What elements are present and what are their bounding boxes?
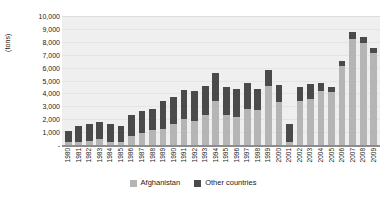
stacked-bar[interactable] (149, 109, 156, 145)
stacked-bar[interactable] (254, 89, 261, 145)
stacked-bar[interactable] (223, 87, 230, 145)
stacked-bar[interactable] (128, 115, 135, 145)
stacked-bar[interactable] (360, 37, 367, 145)
legend-item[interactable]: Other countries (194, 179, 256, 187)
y-tick-label: 2,000 (42, 116, 60, 123)
x-tick-label: 2002 (297, 148, 304, 162)
bar-segment-afghanistan (276, 102, 283, 145)
x-tick-label: 1985 (118, 148, 125, 162)
x-tick-slot: 2005 (326, 147, 337, 173)
y-tick-label: 3,000 (42, 103, 60, 110)
bar-segment-other-countries (75, 126, 82, 143)
bar-segment-afghanistan (307, 99, 314, 145)
legend-swatch-icon (194, 180, 201, 187)
stacked-bar[interactable] (75, 126, 82, 145)
x-tick-label: 1994 (212, 148, 219, 162)
bar-segment-afghanistan (160, 129, 167, 145)
bar-segment-other-countries (297, 87, 304, 101)
plot-area (62, 16, 380, 145)
bar-segment-other-countries (149, 109, 156, 130)
stacked-bar[interactable] (181, 90, 188, 145)
bar-segment-afghanistan (128, 136, 135, 145)
stacked-bar[interactable] (118, 126, 125, 145)
bar-segment-other-countries (318, 83, 325, 91)
y-axis-title: (tons) (4, 0, 18, 52)
y-tick-label: 1,000 (42, 129, 60, 136)
chart-figure: (tons) -1,0002,0003,0004,0005,0006,0007,… (0, 0, 386, 199)
stacked-bar[interactable] (202, 86, 209, 145)
bar-slot (347, 16, 358, 145)
bar-segment-other-countries (265, 70, 272, 85)
x-tick-label: 1995 (223, 148, 230, 162)
bar-slot (337, 16, 348, 145)
bar-slot (305, 16, 316, 145)
bar-slot (147, 16, 158, 145)
bar-slot (253, 16, 264, 145)
x-axis-tick-labels: 1980198119821983198419851986198719881989… (62, 147, 380, 173)
legend-item[interactable]: Afghanistan (130, 179, 181, 187)
x-tick-slot: 1998 (253, 147, 264, 173)
x-tick-label: 2007 (349, 148, 356, 162)
stacked-bar[interactable] (286, 124, 293, 145)
stacked-bar[interactable] (212, 73, 219, 145)
stacked-bar[interactable] (233, 89, 240, 145)
x-tick-label: 1993 (202, 148, 209, 162)
chart-legend: AfghanistanOther countries (0, 176, 386, 190)
stacked-bar[interactable] (244, 83, 251, 145)
y-axis-title-text: (tons) (4, 0, 11, 52)
stacked-bar[interactable] (328, 87, 335, 145)
stacked-bar[interactable] (370, 48, 377, 145)
bar-slot (137, 16, 148, 145)
x-tick-slot: 1987 (137, 147, 148, 173)
bar-slot (200, 16, 211, 145)
stacked-bar[interactable] (139, 111, 146, 145)
x-tick-slot: 1980 (63, 147, 74, 173)
stacked-bar[interactable] (297, 87, 304, 145)
x-tick-label: 2008 (360, 148, 367, 162)
x-tick-label: 1989 (160, 148, 167, 162)
bar-segment-other-countries (86, 124, 93, 141)
stacked-bar[interactable] (96, 122, 103, 145)
x-tick-slot: 1983 (95, 147, 106, 173)
stacked-bar[interactable] (349, 32, 356, 146)
bar-segment-other-countries (65, 131, 72, 142)
bar-slot (232, 16, 243, 145)
bar-segment-afghanistan (244, 109, 251, 145)
stacked-bar[interactable] (107, 124, 114, 145)
bar-segment-other-countries (223, 87, 230, 115)
x-tick-label: 2000 (276, 148, 283, 162)
x-tick-label: 1981 (76, 148, 83, 162)
stacked-bar[interactable] (191, 91, 198, 145)
x-tick-label: 1996 (234, 148, 241, 162)
bar-segment-afghanistan (265, 86, 272, 145)
bar-segment-afghanistan (254, 110, 261, 145)
stacked-bar[interactable] (276, 85, 283, 145)
bar-segment-other-countries (160, 101, 167, 129)
stacked-bar[interactable] (339, 61, 346, 145)
stacked-bar[interactable] (160, 101, 167, 145)
stacked-bar[interactable] (307, 84, 314, 145)
bar-slot (179, 16, 190, 145)
bar-segment-other-countries (118, 126, 125, 143)
bar-slot (126, 16, 137, 145)
bar-slot (274, 16, 285, 145)
y-tick-label: - (58, 142, 60, 149)
x-tick-slot: 2001 (284, 147, 295, 173)
x-tick-slot: 1991 (179, 147, 190, 173)
bar-segment-afghanistan (370, 53, 377, 145)
bar-segment-other-countries (276, 85, 283, 102)
x-tick-slot: 1995 (221, 147, 232, 173)
x-tick-slot: 1985 (116, 147, 127, 173)
stacked-bar[interactable] (86, 124, 93, 145)
bar-segment-other-countries (191, 91, 198, 120)
stacked-bar[interactable] (65, 131, 72, 145)
bar-slot (105, 16, 116, 145)
x-tick-slot: 1982 (84, 147, 95, 173)
bar-segment-afghanistan (139, 133, 146, 145)
bar-segment-afghanistan (149, 130, 156, 145)
bar-slot (284, 16, 295, 145)
stacked-bar[interactable] (318, 83, 325, 145)
x-tick-label: 1986 (128, 148, 135, 162)
stacked-bar[interactable] (170, 97, 177, 145)
stacked-bar[interactable] (265, 70, 272, 145)
